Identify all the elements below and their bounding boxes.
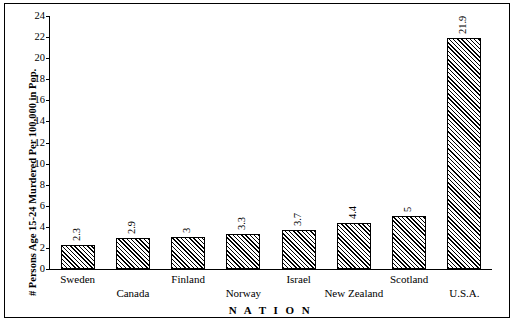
bar <box>447 38 481 269</box>
x-tick-label: Norway <box>226 287 261 299</box>
bar-item: 3 <box>171 16 205 269</box>
bar-item: 3.3 <box>226 16 260 269</box>
x-tick-label: Israel <box>286 273 310 285</box>
plot-area: 024681012141618202224 2.32.933.33.74.452… <box>49 16 492 270</box>
x-tick-label: Finland <box>171 273 205 285</box>
bar-value-label: 5 <box>403 207 413 212</box>
bar <box>171 237 205 269</box>
bar <box>116 238 150 269</box>
bar-item: 2.3 <box>61 16 95 269</box>
bar-value-label: 3.3 <box>237 217 247 230</box>
x-tick-label: Canada <box>116 287 149 299</box>
bar-item: 5 <box>392 16 426 269</box>
x-tick-label: New Zealand <box>324 287 383 299</box>
bar-value-label: 4.4 <box>348 206 358 219</box>
x-axis-title: N A T I O N <box>49 304 492 316</box>
x-tick-label: Scotland <box>390 273 429 285</box>
chart-page: # Persons Age 15-24 Murdered Per 100,000… <box>0 0 515 322</box>
bar-series: 2.32.933.33.74.4521.9 <box>50 16 492 269</box>
bar-item: 21.9 <box>447 16 481 269</box>
bar <box>282 230 316 269</box>
bar-value-label: 3.7 <box>293 213 303 226</box>
bar-value-label: 21.9 <box>458 16 468 34</box>
x-tick-label: Sweden <box>60 273 95 285</box>
bar <box>61 245 95 269</box>
bar-item: 2.9 <box>116 16 150 269</box>
bar-value-label: 2.3 <box>72 228 82 241</box>
x-tick-label: U.S.A. <box>449 287 479 299</box>
bar-item: 4.4 <box>337 16 371 269</box>
y-tick-mark <box>46 269 50 270</box>
bar <box>226 234 260 269</box>
bar-value-label: 3 <box>182 228 192 233</box>
bar-item: 3.7 <box>282 16 316 269</box>
bar <box>392 216 426 269</box>
bar-value-label: 2.9 <box>127 221 137 234</box>
chart-frame: # Persons Age 15-24 Murdered Per 100,000… <box>4 3 510 318</box>
bar <box>337 223 371 269</box>
